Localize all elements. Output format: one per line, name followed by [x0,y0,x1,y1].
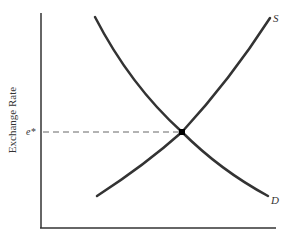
supply-label: S [273,12,279,24]
equilibrium-label: e* [26,126,35,137]
equilibrium-point [179,129,185,135]
y-axis-label: Exchange Rate [6,87,18,153]
demand-label: D [270,194,279,206]
supply-curve [97,18,270,196]
demand-curve [95,17,268,196]
supply-demand-diagram: Exchange Rate e* S D [0,0,290,233]
